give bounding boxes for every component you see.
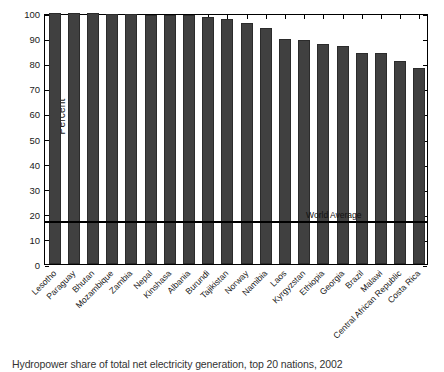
bar — [317, 44, 329, 264]
bar — [356, 53, 368, 264]
x-tick-top-13 — [304, 15, 305, 19]
world-average-line — [45, 221, 427, 223]
x-tick-top-19 — [419, 15, 420, 19]
bar — [298, 40, 310, 264]
x-tick-top-18 — [400, 15, 401, 19]
world-average-label: World Average — [306, 210, 361, 220]
bar — [221, 19, 233, 264]
x-tick-top-11 — [266, 15, 267, 19]
y-tick-right-100 — [423, 15, 427, 16]
bar — [68, 13, 80, 264]
bar — [106, 14, 118, 264]
bar — [202, 17, 214, 264]
bar — [49, 13, 61, 264]
x-axis-category-labels: LesothoParaguayBhutanMozambiqueZambiaNep… — [44, 266, 428, 352]
x-tick-top-16 — [362, 15, 363, 19]
x-tick-top-10 — [247, 15, 248, 19]
bar — [279, 39, 291, 264]
bar — [260, 28, 272, 264]
bar — [375, 53, 387, 264]
bar — [87, 13, 99, 264]
bar — [125, 14, 137, 264]
bar — [337, 46, 349, 264]
y-tick-right-90 — [423, 40, 427, 41]
bar — [164, 15, 176, 264]
figure-caption: Hydropower share of total net electricit… — [12, 358, 343, 370]
chart-figure: Percent 0102030405060708090100 World Ave… — [0, 0, 444, 372]
bar — [394, 61, 406, 264]
y-tick-right-80 — [423, 65, 427, 66]
x-tick-top-14 — [323, 15, 324, 19]
x-tick-top-15 — [343, 15, 344, 19]
x-tick-top-17 — [381, 15, 382, 19]
bar — [241, 23, 253, 264]
bar — [413, 68, 425, 264]
bar — [145, 15, 157, 264]
bar — [183, 15, 195, 264]
plot-area: Percent 0102030405060708090100 World Ave… — [44, 14, 428, 265]
x-tick-top-12 — [285, 15, 286, 19]
